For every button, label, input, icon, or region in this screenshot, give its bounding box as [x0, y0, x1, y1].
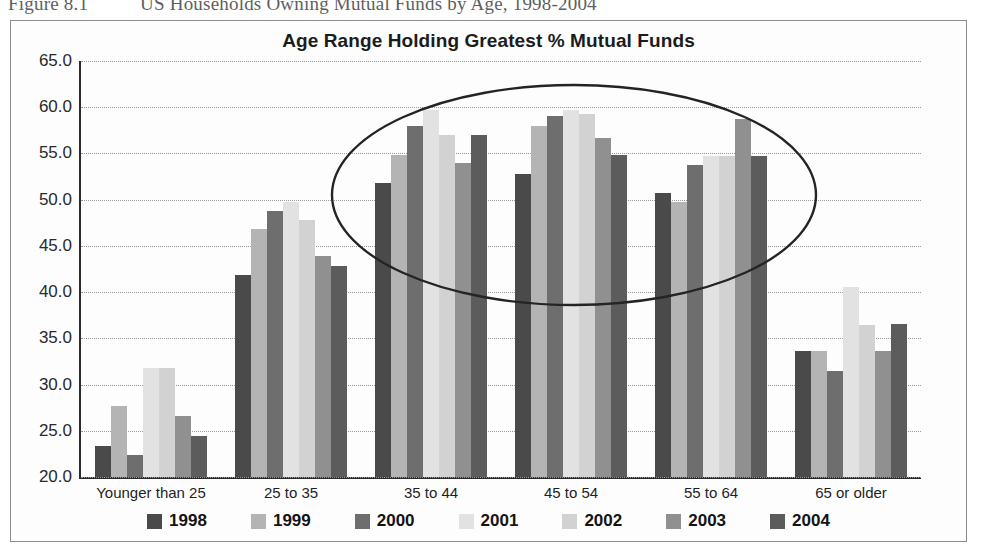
- bar-group: Younger than 25: [81, 61, 221, 477]
- bar-2002[interactable]: [719, 156, 735, 477]
- bar-group: 45 to 54: [501, 61, 641, 477]
- bar-group: 35 to 44: [361, 61, 501, 477]
- bar-2002[interactable]: [579, 114, 595, 477]
- bar-2003[interactable]: [875, 351, 891, 477]
- y-axis-tick-label: 25.0: [39, 421, 72, 441]
- y-axis-tick-label: 55.0: [39, 143, 72, 163]
- legend-swatch-icon: [459, 514, 474, 529]
- bar-2002[interactable]: [439, 135, 455, 477]
- bar-group-bars: [655, 61, 767, 477]
- bar-group: 55 to 64: [641, 61, 781, 477]
- legend-label: 2003: [688, 511, 726, 531]
- legend-item-2001[interactable]: 2001: [459, 511, 519, 531]
- plot-area: 20.025.030.035.040.045.050.055.060.065.0…: [79, 61, 921, 479]
- bar-1999[interactable]: [111, 406, 127, 477]
- legend-swatch-icon: [562, 514, 577, 529]
- bar-1998[interactable]: [515, 174, 531, 477]
- bar-2004[interactable]: [191, 436, 207, 477]
- bar-2000[interactable]: [687, 165, 703, 477]
- bar-1998[interactable]: [795, 351, 811, 477]
- legend-item-2002[interactable]: 2002: [562, 511, 622, 531]
- legend-label: 2001: [481, 511, 519, 531]
- figure-caption-text: US Households Owning Mutual Funds by Age…: [140, 0, 597, 14]
- bar-2001[interactable]: [143, 368, 159, 477]
- legend-swatch-icon: [251, 514, 266, 529]
- legend-item-2003[interactable]: 2003: [666, 511, 726, 531]
- gridline: [81, 477, 921, 478]
- x-axis-category-label: 55 to 64: [641, 484, 781, 501]
- bar-1999[interactable]: [251, 229, 267, 477]
- bar-2003[interactable]: [175, 416, 191, 477]
- x-axis-category-label: 25 to 35: [221, 484, 361, 501]
- bar-group-bars: [375, 61, 487, 477]
- bar-2004[interactable]: [331, 266, 347, 477]
- bar-2000[interactable]: [547, 116, 563, 477]
- bar-2002[interactable]: [159, 368, 175, 477]
- bar-1999[interactable]: [391, 155, 407, 477]
- bar-2004[interactable]: [751, 156, 767, 477]
- legend: 1998199920002001200220032004: [11, 511, 966, 531]
- y-axis-tick-label: 20.0: [39, 467, 72, 487]
- legend-item-1998[interactable]: 1998: [147, 511, 207, 531]
- bar-2004[interactable]: [891, 324, 907, 477]
- bar-group-bars: [95, 61, 207, 477]
- bar-2003[interactable]: [735, 119, 751, 477]
- bar-2001[interactable]: [563, 110, 579, 477]
- bar-1999[interactable]: [671, 202, 687, 477]
- bar-group: 65 or older: [781, 61, 921, 477]
- bar-2002[interactable]: [859, 325, 875, 477]
- bar-1999[interactable]: [531, 126, 547, 477]
- y-axis-tick-label: 65.0: [39, 51, 72, 71]
- legend-item-2004[interactable]: 2004: [770, 511, 830, 531]
- figure-caption: Figure 8.1US Households Owning Mutual Fu…: [0, 0, 985, 15]
- y-axis-tick-label: 30.0: [39, 375, 72, 395]
- bar-2004[interactable]: [471, 135, 487, 477]
- bar-2003[interactable]: [455, 163, 471, 477]
- bar-2003[interactable]: [315, 256, 331, 477]
- bar-2000[interactable]: [127, 455, 143, 477]
- bar-1998[interactable]: [235, 275, 251, 477]
- x-axis-category-label: Younger than 25: [81, 484, 221, 501]
- x-axis-category-label: 45 to 54: [501, 484, 641, 501]
- y-axis-tick-label: 40.0: [39, 282, 72, 302]
- bar-2000[interactable]: [407, 126, 423, 477]
- legend-label: 1999: [273, 511, 311, 531]
- bar-1998[interactable]: [95, 446, 111, 477]
- legend-label: 1998: [169, 511, 207, 531]
- chart-title: Age Range Holding Greatest % Mutual Fund…: [11, 30, 966, 52]
- bar-2001[interactable]: [703, 156, 719, 477]
- bar-2004[interactable]: [611, 155, 627, 477]
- bar-1998[interactable]: [655, 193, 671, 477]
- bar-1999[interactable]: [811, 351, 827, 477]
- legend-item-1999[interactable]: 1999: [251, 511, 311, 531]
- legend-swatch-icon: [355, 514, 370, 529]
- bar-2002[interactable]: [299, 220, 315, 477]
- y-axis-tick-label: 60.0: [39, 97, 72, 117]
- bar-group-bars: [515, 61, 627, 477]
- bar-group-bars: [795, 61, 907, 477]
- legend-item-2000[interactable]: 2000: [355, 511, 415, 531]
- x-axis-category-label: 35 to 44: [361, 484, 501, 501]
- bar-2001[interactable]: [283, 202, 299, 477]
- legend-label: 2000: [377, 511, 415, 531]
- legend-swatch-icon: [666, 514, 681, 529]
- bar-2001[interactable]: [423, 110, 439, 477]
- bar-1998[interactable]: [375, 183, 391, 477]
- bar-2000[interactable]: [267, 211, 283, 477]
- chart-frame: Age Range Holding Greatest % Mutual Fund…: [10, 20, 967, 542]
- y-axis-tick-label: 35.0: [39, 328, 72, 348]
- bar-2003[interactable]: [595, 138, 611, 477]
- bar-group: 25 to 35: [221, 61, 361, 477]
- figure-caption-number: Figure 8.1: [8, 0, 88, 14]
- legend-swatch-icon: [770, 514, 785, 529]
- bar-group-bars: [235, 61, 347, 477]
- legend-label: 2002: [584, 511, 622, 531]
- legend-swatch-icon: [147, 514, 162, 529]
- bar-2001[interactable]: [843, 287, 859, 477]
- bar-groups: Younger than 2525 to 3535 to 4445 to 545…: [81, 61, 921, 477]
- y-axis-tick-label: 45.0: [39, 236, 72, 256]
- legend-label: 2004: [792, 511, 830, 531]
- bar-2000[interactable]: [827, 371, 843, 477]
- y-axis-tick-label: 50.0: [39, 190, 72, 210]
- x-axis-category-label: 65 or older: [781, 484, 921, 501]
